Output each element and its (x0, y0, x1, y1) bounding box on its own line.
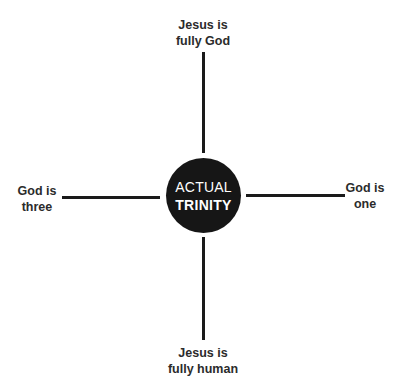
top-label-line1: Jesus is (153, 17, 253, 33)
right-label-line1: God is (336, 180, 394, 196)
top-connector-line (202, 52, 205, 153)
center-node: ACTUAL TRINITY (166, 158, 241, 233)
top-label: Jesus is fully God (153, 17, 253, 49)
right-connector-line (246, 194, 345, 197)
right-label-line2: one (336, 196, 394, 212)
bottom-connector-line (202, 237, 205, 340)
right-label: God is one (336, 180, 394, 212)
bottom-label-line1: Jesus is (148, 345, 258, 361)
left-label: God is three (7, 183, 67, 215)
top-label-line2: fully God (153, 33, 253, 49)
bottom-label-line2: fully human (148, 361, 258, 377)
left-connector-line (62, 196, 160, 199)
center-label-line1: ACTUAL (175, 178, 231, 196)
bottom-label: Jesus is fully human (148, 345, 258, 377)
left-label-line2: three (7, 199, 67, 215)
center-label-line2: TRINITY (175, 196, 232, 214)
left-label-line1: God is (7, 183, 67, 199)
